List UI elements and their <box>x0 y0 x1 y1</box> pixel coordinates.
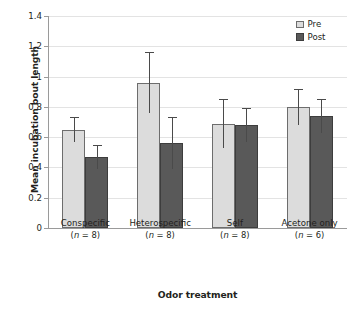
legend-label-post: Post <box>308 31 326 44</box>
error-bar-cap-top <box>93 145 102 146</box>
y-tick-label: 1.2 <box>28 41 42 51</box>
error-bar-cap-top <box>145 52 154 53</box>
bar-post-acetone-only <box>310 116 333 228</box>
error-bar-line <box>298 89 299 125</box>
gridline <box>48 77 347 78</box>
error-bar-cap-top <box>294 89 303 90</box>
gridline <box>48 16 347 17</box>
y-tick-label: 0.2 <box>28 193 42 203</box>
y-tick-label: 1.4 <box>28 11 42 21</box>
error-bar-line <box>149 52 150 113</box>
x-tick-category-name: Self <box>227 218 243 228</box>
y-tick-label: 0.4 <box>28 162 42 172</box>
error-bar-line <box>223 99 224 147</box>
error-bar-line <box>97 145 98 169</box>
error-bar-cap-top <box>70 117 79 118</box>
x-tick-sample-size: (n = 6) <box>250 230 359 242</box>
legend-swatch-post <box>296 33 304 41</box>
y-tick-label: 0.6 <box>28 132 42 142</box>
bar-pre-conspecific <box>62 130 85 228</box>
error-bar-cap-top <box>219 99 228 100</box>
x-axis-title: Odor treatment <box>48 289 347 300</box>
legend-label-pre: Pre <box>308 18 322 31</box>
error-bar-cap-top <box>242 108 251 109</box>
error-bar-cap-top <box>317 99 326 100</box>
y-tick-label: 1 <box>37 72 42 82</box>
x-tick-label-acetone-only: Acetone only(n = 6) <box>250 218 359 241</box>
chart-legend: PrePost <box>296 18 325 43</box>
error-bar-line <box>246 108 247 141</box>
y-axis-line <box>48 16 49 229</box>
gridline <box>48 46 347 47</box>
y-tick-label: 0.8 <box>28 102 42 112</box>
legend-swatch-pre <box>296 21 304 29</box>
plot-area: 00.20.40.60.811.21.4 <box>48 16 347 228</box>
error-bar-cap-top <box>168 117 177 118</box>
x-tick-category-name: Acetone only <box>282 218 338 228</box>
bar-pre-acetone-only <box>287 107 310 228</box>
error-bar-line <box>321 99 322 132</box>
error-bar-line <box>74 117 75 141</box>
plot-inner: 00.20.40.60.811.21.4 <box>48 16 347 228</box>
legend-item-post[interactable]: Post <box>296 31 325 44</box>
legend-item-pre[interactable]: Pre <box>296 18 325 31</box>
error-bar-line <box>172 117 173 168</box>
bar-chart-figure: Mean incubation bout length 00.20.40.60.… <box>0 0 359 312</box>
